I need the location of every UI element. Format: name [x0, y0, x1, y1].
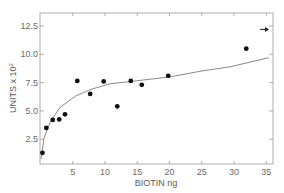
y-axis-ticks: 2.55.07.510.012.5 [20, 21, 273, 144]
x-tick-label: 20 [164, 167, 174, 177]
data-point [63, 112, 68, 117]
data-point [57, 117, 62, 122]
x-tick-label: 10 [100, 167, 110, 177]
x-axis-label: BIOTIN ng [135, 178, 178, 188]
y-tick-label: 7.5 [25, 78, 38, 88]
data-point [75, 79, 80, 84]
y-tick-label: 12.5 [20, 21, 38, 31]
x-tick-label: 35 [261, 167, 271, 177]
data-points [40, 46, 249, 155]
y-axis-label-group: UNITS x 102 [8, 62, 18, 113]
data-point [115, 104, 120, 109]
data-point [166, 73, 171, 78]
data-point [128, 79, 133, 84]
data-point [40, 150, 45, 155]
data-point [88, 92, 93, 97]
data-point [50, 118, 55, 123]
plot-frame [40, 13, 273, 164]
y-tick-label: 10.0 [20, 49, 38, 59]
x-tick-label: 30 [229, 167, 239, 177]
data-point [101, 79, 106, 84]
x-tick-label: 25 [197, 167, 207, 177]
fitted-curve [41, 58, 269, 159]
data-point [244, 46, 249, 51]
y-tick-label: 5.0 [25, 106, 38, 116]
x-axis-ticks: 5101520253035 [70, 13, 271, 177]
data-point [44, 125, 49, 130]
y-tick-label: 2.5 [25, 134, 38, 144]
x-tick-label: 5 [70, 167, 75, 177]
data-point [139, 82, 144, 87]
y-axis-label: UNITS x 102 [8, 62, 18, 113]
off-scale-arrow-icon [260, 27, 269, 32]
x-tick-label: 15 [132, 167, 142, 177]
biotin-units-chart: 5101520253035 2.55.07.510.012.5 BIOTIN n… [0, 0, 284, 193]
